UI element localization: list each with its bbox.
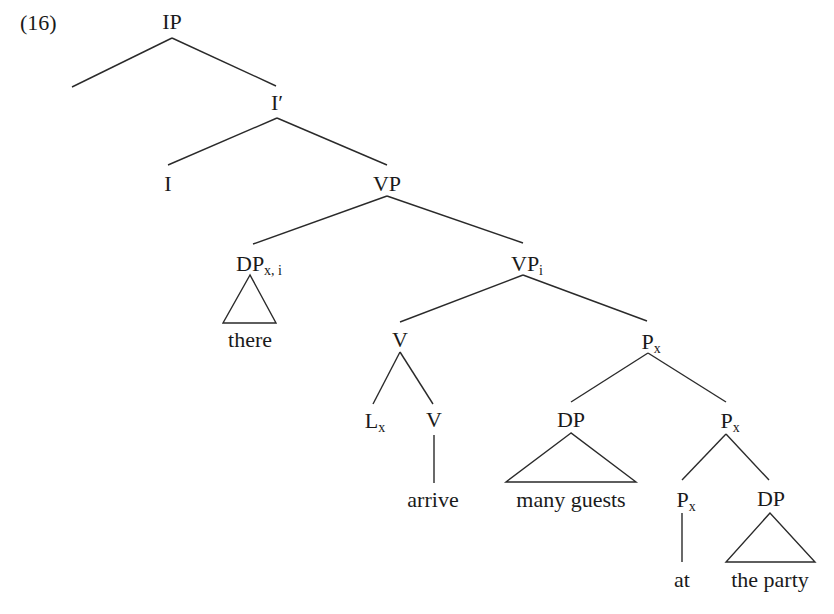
leaf-many-guests: many guests xyxy=(516,489,625,511)
node-dp-guests: DP xyxy=(557,409,585,431)
node-vp: VP xyxy=(373,173,401,195)
node-ip: IP xyxy=(162,11,182,33)
node-dp-party: DP xyxy=(757,488,785,510)
node-px-top: Px xyxy=(641,331,660,353)
node-dp-there: DPx, i xyxy=(236,253,282,275)
leaf-at: at xyxy=(674,569,690,591)
tree-edges xyxy=(0,0,834,614)
leaf-arrive: arrive xyxy=(407,489,458,511)
leaf-the-party: the party xyxy=(731,569,809,591)
example-number: (16) xyxy=(20,12,57,34)
node-v-top: V xyxy=(392,329,408,351)
node-px-low: Px xyxy=(676,489,695,511)
node-px-mid: Px xyxy=(720,410,739,432)
node-lx: Lx xyxy=(365,410,385,432)
node-v-low: V xyxy=(426,409,442,431)
node-vp-i: VPi xyxy=(511,253,543,275)
leaf-there: there xyxy=(228,329,272,351)
node-i-bar: I′ xyxy=(271,92,283,114)
node-i: I xyxy=(164,173,171,195)
